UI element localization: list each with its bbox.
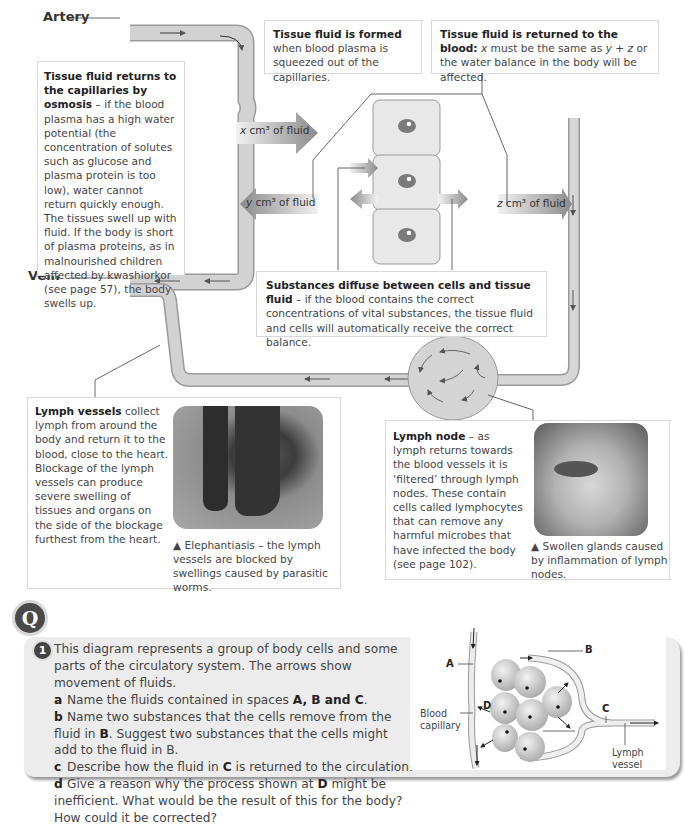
swollen-glands-caption: ▲ Swollen glands caused by inflammation …	[531, 539, 671, 581]
artery-label: Artery	[43, 9, 89, 24]
label-A: A	[446, 658, 454, 669]
lymph-vessel-label: Lymph vessel	[612, 747, 652, 771]
label-B: B	[585, 644, 593, 655]
label-D: D	[483, 700, 491, 711]
osmosis-callout: Tissue fluid returns to the capillaries …	[37, 61, 185, 276]
lymph-vessels-callout: Lymph vessels collect lymph from around …	[27, 397, 341, 589]
lymph-node-callout: Lymph node – as lymph returns towards th…	[385, 420, 670, 580]
question-part-c: cDescribe how the fluid in C is returned…	[54, 759, 414, 776]
question-part-b: bName two substances that the cells remo…	[54, 709, 414, 760]
tissue-fluid-returned-callout: Tissue fluid is returned to the blood: x…	[431, 20, 659, 74]
question-intro: This diagram represents a group of body …	[54, 641, 414, 692]
question-text: This diagram represents a group of body …	[54, 641, 414, 826]
y-fluid-label: y cm³ of fluid	[246, 196, 315, 208]
tissue-fluid-formed-callout: Tissue fluid is formed when blood plasma…	[264, 20, 422, 74]
z-fluid-label: z cm³ of fluid	[497, 197, 566, 209]
swollen-glands-photo	[534, 423, 648, 536]
question-part-a: aName the fluids contained in spaces A, …	[54, 692, 414, 709]
question-badge: Q	[12, 600, 48, 636]
question-cells	[490, 659, 572, 762]
label-C: C	[602, 703, 609, 714]
x-fluid-label: x cm³ of fluid	[240, 124, 309, 136]
lymph-collecting-vessel	[480, 118, 574, 380]
blood-capillary-label: Blood capillary	[420, 708, 466, 732]
elephantiasis-photo	[173, 406, 323, 529]
question-part-d: dGive a reason why the process shown at …	[54, 776, 414, 826]
diffusion-callout: Substances diffuse between cells and tis…	[256, 271, 547, 337]
elephantiasis-caption: ▲ Elephantiasis – the lymph vessels are …	[173, 538, 338, 594]
lymph-node	[408, 336, 498, 420]
body-cells	[373, 100, 440, 264]
question-number-badge: 1	[32, 640, 53, 661]
question-figure: A B C D Blood capillary Lymph vessel	[410, 620, 666, 770]
